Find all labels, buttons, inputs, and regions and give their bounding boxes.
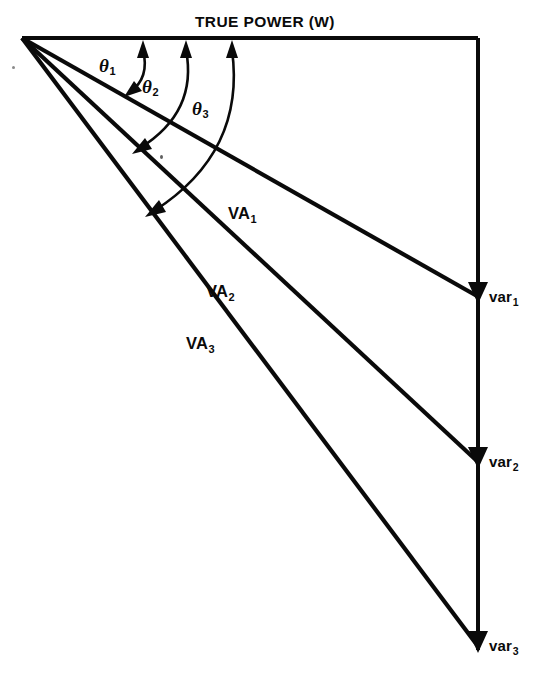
- scan-speck: [12, 66, 15, 69]
- var2-text: var: [489, 453, 512, 470]
- va1-vector-line: [22, 38, 477, 296]
- theta2-label: θ2: [142, 77, 158, 96]
- va3-text: VA: [186, 334, 208, 352]
- theta3-arc: [154, 50, 234, 211]
- phasor-diagram-canvas: [0, 0, 537, 686]
- theta2-arc-top-arrowhead: [180, 40, 192, 58]
- va1-label: VA1: [228, 205, 256, 222]
- theta2-arc: [140, 50, 188, 148]
- theta2-subscript: 2: [152, 86, 158, 98]
- theta3-subscript: 3: [202, 108, 208, 120]
- scan-speck: [160, 155, 163, 159]
- var1-label: var1: [489, 289, 518, 304]
- theta2-symbol: θ: [142, 76, 152, 97]
- var2-subscript: 2: [513, 461, 519, 473]
- var1-text: var: [489, 288, 512, 305]
- var1-subscript: 1: [513, 296, 519, 308]
- power-triangle-diagram: TRUE POWER (W) θ1 θ2 θ3 VA1 VA2 VA3 var1…: [0, 0, 537, 686]
- va2-text: VA: [206, 282, 228, 300]
- theta1-arc-top-arrowhead: [137, 40, 149, 58]
- theta3-label: θ3: [192, 99, 208, 118]
- va3-vector-line: [22, 38, 477, 645]
- va3-subscript: 3: [209, 343, 215, 355]
- theta1-subscript: 1: [109, 65, 115, 77]
- var3-subscript: 3: [513, 645, 519, 657]
- va2-subscript: 2: [229, 291, 235, 303]
- theta3-arc-top-arrowhead: [226, 40, 238, 58]
- var2-label: var2: [489, 454, 518, 469]
- va1-text: VA: [228, 204, 250, 222]
- var3-text: var: [489, 637, 512, 654]
- var3-arrowhead: [468, 631, 488, 653]
- theta3-symbol: θ: [192, 98, 202, 119]
- var3-label: var3: [489, 638, 518, 653]
- va3-label: VA3: [186, 335, 214, 352]
- diagram-title: TRUE POWER (W): [195, 14, 335, 30]
- va2-vector-line: [22, 38, 477, 461]
- va2-label: VA2: [206, 283, 234, 300]
- theta1-symbol: θ: [99, 55, 109, 76]
- va1-subscript: 1: [251, 213, 257, 225]
- theta1-label: θ1: [99, 56, 115, 75]
